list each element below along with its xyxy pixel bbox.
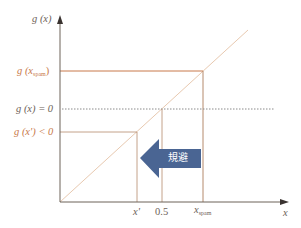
y-axis-arrowhead xyxy=(57,15,63,24)
x-spam-label: xspam xyxy=(194,205,211,216)
evade-arrow-label: 規避 xyxy=(168,153,188,163)
y-axis-label: g (x) xyxy=(32,14,52,25)
x-axis-arrowhead xyxy=(280,199,289,205)
half-label: 0.5 xyxy=(155,207,168,218)
g-zero-label: g (x) = 0 xyxy=(16,104,53,115)
g-spam-label: g (xspam) xyxy=(17,66,49,77)
x-prime-label: x' xyxy=(133,207,140,218)
g-xprime-label: g (x') < 0 xyxy=(14,127,53,138)
x-axis-label: x xyxy=(283,208,288,219)
diagonal-line xyxy=(60,30,248,202)
